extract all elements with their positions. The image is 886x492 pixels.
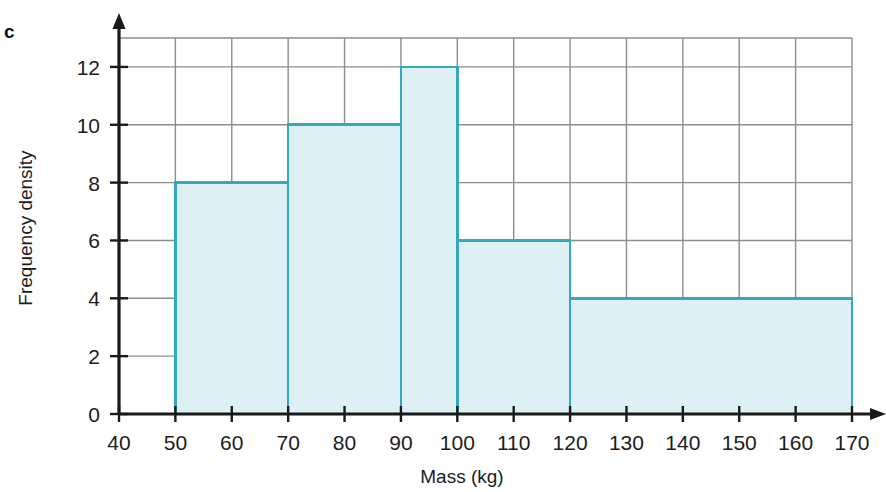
- y-tick-label: 12: [77, 56, 100, 79]
- y-tick-label: 0: [88, 403, 100, 426]
- x-tick-label: 150: [722, 431, 757, 454]
- x-tick-label: 120: [553, 431, 588, 454]
- histogram-bar: [457, 240, 570, 414]
- x-tick-label: 90: [389, 431, 412, 454]
- y-axis-tick-labels: 024681012: [77, 56, 101, 426]
- histogram-bar: [288, 125, 401, 414]
- x-tick-label: 100: [440, 431, 475, 454]
- histogram-bar: [401, 67, 457, 414]
- y-tick-label: 8: [88, 172, 100, 195]
- y-tick-label: 2: [88, 345, 100, 368]
- x-tick-label: 40: [107, 431, 130, 454]
- x-axis-title: Mass (kg): [420, 466, 503, 487]
- y-tick-label: 10: [77, 114, 100, 137]
- x-axis-arrow-icon: [870, 408, 886, 420]
- x-tick-label: 70: [276, 431, 299, 454]
- histogram-plot: 405060708090100110120130140150160170 024…: [0, 0, 886, 492]
- y-axis-arrow-icon: [113, 13, 126, 29]
- x-tick-label: 170: [834, 431, 869, 454]
- x-tick-label: 50: [164, 431, 187, 454]
- x-tick-label: 130: [609, 431, 644, 454]
- x-tick-label: 60: [220, 431, 243, 454]
- y-axis-title: Frequency density: [15, 150, 36, 306]
- x-axis-tick-labels: 405060708090100110120130140150160170: [107, 431, 869, 454]
- histogram-bar: [175, 183, 288, 414]
- histogram-bar: [570, 298, 852, 414]
- x-tick-label: 160: [778, 431, 813, 454]
- x-tick-label: 80: [333, 431, 356, 454]
- histogram-figure: c 405060708090100110120130140150160170 0…: [0, 0, 886, 492]
- y-tick-label: 6: [88, 229, 100, 252]
- x-tick-label: 110: [497, 431, 530, 454]
- y-tick-label: 4: [88, 287, 100, 310]
- x-tick-label: 140: [665, 431, 700, 454]
